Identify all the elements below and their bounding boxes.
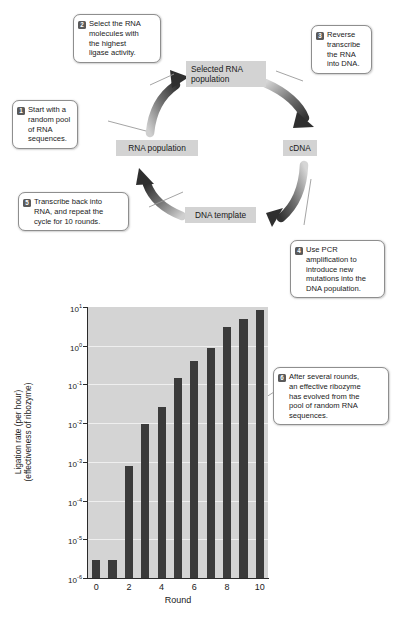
y-tick-mark [83, 346, 88, 347]
y-tick-label: 10-2 [68, 418, 82, 430]
y-tick-label: 10-4 [68, 496, 82, 508]
bar [125, 466, 133, 578]
callout-3-line-3: the RNA [316, 50, 366, 60]
ligation-rate-chart: 10110010-110-210-310-410-510-6 Ligation … [0, 296, 398, 618]
x-axis-line [87, 578, 269, 579]
y-tick-label: 10-6 [68, 573, 82, 585]
y-tick-label: 10-3 [68, 457, 82, 469]
bar [223, 327, 231, 578]
chart-plot-area [88, 307, 268, 578]
x-tick-label: 6 [192, 582, 197, 592]
callout-3-line-2: transcribe [316, 40, 366, 50]
callout-step-1[interactable]: 1Start with a random pool of RNA sequenc… [12, 100, 78, 149]
node-cdna: cDNA [283, 140, 317, 156]
callout-2-line-2: molecules with [78, 29, 155, 39]
callout-5-line-2: RNA, and repeat the [23, 207, 123, 217]
step-number-3: 3 [316, 32, 324, 40]
y-axis-title: Ligation rate (per hour) (effectiveness … [13, 347, 33, 517]
bar [141, 424, 149, 578]
node-selected-rna-population: Selected RNA population [186, 61, 266, 87]
x-axis-title: Round [88, 595, 268, 605]
step-number-5: 5 [23, 199, 31, 207]
callout-4-line-2: amplification to [295, 255, 379, 265]
callout-4-line-4: mutations into the [295, 274, 379, 284]
y-tick-mark [83, 578, 88, 579]
callout-1-line-4: sequences. [17, 134, 72, 144]
callout-step-3[interactable]: 3Reverse transcribe the RNA into DNA. [311, 25, 372, 74]
step-number-2: 2 [78, 21, 86, 29]
x-tick-label: 4 [159, 582, 164, 592]
callout-step-2[interactable]: 2Select the RNA molecules with the highe… [73, 14, 161, 63]
callout-step-4[interactable]: 4Use PCR amplification to introduce new … [290, 240, 385, 298]
y-tick-mark [83, 384, 88, 385]
callout-4-line-5: DNA population. [295, 284, 379, 294]
x-tick-label: 0 [94, 582, 99, 592]
bar [108, 560, 116, 578]
bar [190, 361, 198, 578]
callout-4-line-1: Use PCR [306, 245, 338, 254]
bar [92, 560, 100, 578]
bar [207, 348, 215, 579]
callout-3-line-1: Reverse [327, 30, 355, 39]
callout-3-line-4: into DNA. [316, 59, 366, 69]
y-tick-mark [83, 462, 88, 463]
bar [174, 378, 182, 578]
callout-1-line-2: random pool [17, 115, 72, 125]
callout-2-line-1: Select the RNA [89, 19, 141, 28]
y-tick-mark [83, 501, 88, 502]
y-tick-label: 100 [70, 341, 82, 353]
callout-5-line-1: Transcribe back into [34, 197, 102, 206]
bar [256, 310, 264, 578]
x-tick-label: 8 [225, 582, 230, 592]
node-rna-population: RNA population [116, 140, 198, 156]
y-tick-label: 10-5 [68, 534, 82, 546]
figure-canvas: Selected RNA population cDNA DNA templat… [0, 0, 398, 618]
callout-4-line-3: introduce new [295, 265, 379, 275]
callout-2-line-4: ligase activity. [78, 48, 155, 58]
y-tick-label: 10-1 [68, 379, 82, 391]
y-axis-tick-labels: 10110010-110-210-310-410-510-6 [46, 296, 82, 596]
callout-1-line-1: Start with a [28, 105, 66, 114]
x-tick-label: 10 [255, 582, 265, 592]
bar [239, 319, 247, 578]
callout-5-line-3: cycle for 10 rounds. [23, 217, 123, 227]
y-tick-label: 101 [70, 302, 82, 314]
y-axis-line [87, 307, 88, 579]
callout-1-line-3: of RNA [17, 125, 72, 135]
y-tick-mark [83, 539, 88, 540]
callout-step-5[interactable]: 5Transcribe back into RNA, and repeat th… [18, 192, 129, 231]
y-tick-mark [83, 423, 88, 424]
step-number-1: 1 [17, 107, 25, 115]
step-number-4: 4 [295, 247, 303, 255]
callout-2-line-3: the highest [78, 39, 155, 49]
node-dna-template: DNA template [185, 207, 256, 223]
bar [158, 407, 166, 578]
x-tick-label: 2 [126, 582, 131, 592]
y-tick-mark [83, 307, 88, 308]
